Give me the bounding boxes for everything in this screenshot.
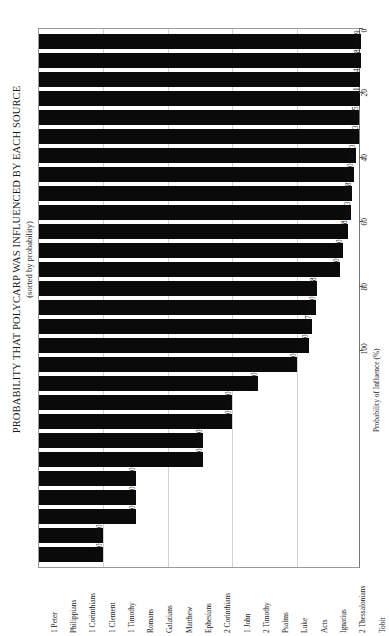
bar-value-text: 51.00	[196, 429, 204, 446]
bar-value-text: 99.88	[354, 49, 362, 66]
bar-value-label: 94.40	[345, 250, 362, 258]
tick-label: 60	[360, 218, 369, 226]
bar-row: 30.00	[39, 469, 359, 488]
bar-row: 99.99	[39, 32, 359, 51]
category-label: Acts	[320, 619, 329, 633]
bar	[39, 53, 361, 67]
category-label: Matthew	[185, 607, 194, 633]
bar	[39, 243, 343, 257]
value-axis-ticks: 020406080100	[362, 28, 388, 568]
bar	[39, 224, 348, 238]
bar-value-label: 51.00	[205, 440, 222, 448]
chart-title: PROBABILITY THAT POLYCARP WAS INFLUENCED…	[11, 80, 22, 440]
bar	[39, 452, 203, 466]
tick-label: 0	[360, 29, 369, 33]
bar-value-text: 30.00	[129, 486, 137, 503]
bar-value-text: 86.00	[309, 296, 317, 313]
category-label: 1 Peter	[50, 612, 59, 633]
bar-row: 80.00	[39, 355, 359, 374]
bar	[39, 414, 232, 428]
bar	[39, 490, 136, 504]
bar	[39, 471, 136, 485]
bar-value-text: 84.87	[305, 315, 313, 332]
tick-label: 100	[360, 343, 369, 354]
bar-row: 30.00	[39, 488, 359, 507]
bar	[39, 91, 360, 105]
bar-rows: 99.9999.8899.7499.6199.4599.2398.4397.80…	[39, 29, 359, 567]
bar-value-label: 86.00	[318, 307, 335, 315]
bar	[39, 509, 136, 523]
bar-value-text: 60.00	[225, 391, 233, 408]
bar-value-label: 30.00	[138, 516, 155, 524]
bar	[39, 186, 352, 200]
bar-row: 97.80	[39, 165, 359, 184]
bar-value-label: 84.87	[314, 326, 331, 334]
bar-value-label: 20.00	[105, 554, 122, 562]
bar-row: 51.00	[39, 450, 359, 469]
bar-value-text: 99.23	[352, 125, 360, 142]
bar-row: 99.23	[39, 127, 359, 146]
tick-label: 80	[360, 283, 369, 291]
bar-value-label: 86.28	[319, 288, 336, 296]
bar	[39, 300, 316, 314]
bar	[39, 34, 361, 48]
bar-value-label: 93.60	[342, 269, 359, 277]
category-label: Ignatius	[339, 609, 348, 633]
bar	[39, 357, 297, 371]
bar	[39, 110, 359, 124]
tick-label: 20	[360, 89, 369, 97]
bar-value-text: 51.00	[196, 448, 204, 465]
bar-row: 68.00	[39, 374, 359, 393]
bar-value-label: 68.00	[260, 383, 277, 391]
bar-value-text: 68.00	[251, 372, 259, 389]
plot-area: 99.9999.8899.7499.6199.4599.2398.4397.80…	[38, 28, 360, 568]
category-label: 1 Corinthians	[88, 593, 97, 633]
category-label: Psalms	[281, 612, 290, 633]
bar-value-text: 93.60	[333, 258, 341, 275]
tick-label: 40	[360, 154, 369, 162]
bar	[39, 262, 340, 276]
category-label: 1 Timothy	[127, 602, 136, 633]
bar	[39, 395, 232, 409]
bar-value-text: 97.18	[345, 182, 353, 199]
category-label: Ephesians	[204, 603, 213, 633]
bar-value-label: 20.00	[105, 535, 122, 543]
bar	[39, 167, 354, 181]
chart-subtitle: (sorted by probability)	[24, 80, 34, 440]
bar-row: 94.40	[39, 241, 359, 260]
bar-value-label: 30.00	[138, 497, 155, 505]
bar-value-text: 80.00	[290, 353, 298, 370]
bar-row: 20.00	[39, 526, 359, 545]
bar-row: 20.00	[39, 545, 359, 564]
bar-value-text: 86.28	[310, 277, 318, 294]
bar-row: 97.18	[39, 184, 359, 203]
bar-value-text: 96.93	[344, 201, 352, 218]
bar-value-label: 60.00	[234, 421, 251, 429]
chart-title-block: PROBABILITY THAT POLYCARP WAS INFLUENCED…	[11, 80, 34, 440]
category-label: 1 Clement	[108, 602, 117, 633]
bar-row: 99.61	[39, 89, 359, 108]
bar	[39, 433, 203, 447]
bar-row: 60.00	[39, 393, 359, 412]
bar-value-text: 99.74	[353, 68, 361, 85]
bar-value-text: 30.00	[129, 467, 137, 484]
bar-row: 96.93	[39, 203, 359, 222]
bar-row: 99.74	[39, 70, 359, 89]
bar	[39, 376, 258, 390]
bar	[39, 205, 351, 219]
bar-value-text: 30.00	[129, 505, 137, 522]
bar-value-label: 60.00	[234, 402, 251, 410]
bar-value-text: 98.43	[349, 144, 357, 161]
bar-row: 30.00	[39, 507, 359, 526]
bar-value-text: 94.40	[336, 239, 344, 256]
bar-row: 84.87	[39, 317, 359, 336]
category-label: 2 Timothy	[262, 602, 271, 633]
bar	[39, 528, 103, 542]
bar	[39, 129, 359, 143]
bar-value-text: 96.08	[341, 220, 349, 237]
bar-row: 98.43	[39, 146, 359, 165]
bar	[39, 319, 312, 333]
bar-value-label: 30.00	[138, 478, 155, 486]
bar-value-label: 51.00	[205, 459, 222, 467]
bar-value-text: 60.00	[225, 410, 233, 427]
